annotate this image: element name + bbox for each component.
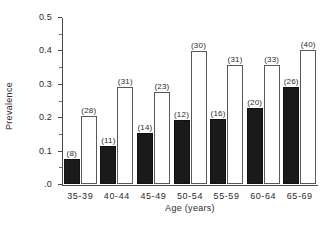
bar-open-50-54: (30) (191, 51, 207, 184)
bar-count-label: (28) (81, 106, 96, 115)
bar-filled-35-39: (8) (64, 159, 80, 184)
x-tick-label-40-44: 40-44 (104, 191, 130, 201)
y-minor-tick-3 (59, 67, 62, 68)
x-axis-line (62, 185, 318, 186)
y-tick-label-0: .0 (44, 179, 52, 189)
bar-count-label: (8) (67, 149, 77, 158)
bar-open-65-69: (40) (300, 50, 316, 184)
y-tick-label-4: 0.4 (39, 45, 52, 55)
x-tick-label-55-59: 55-59 (214, 191, 240, 201)
bar-count-label: (31) (228, 55, 243, 64)
x-axis-title: Age (years) (62, 203, 318, 213)
plot-area: .00.10.20.30.40.5 (8)(28)(11)(31)(14)(23… (62, 18, 318, 185)
bar-group: (16)(31) (210, 17, 243, 184)
y-tick-label-5: 0.5 (39, 12, 52, 22)
y-axis-title: Prevalence (2, 56, 16, 156)
bar-count-label: (23) (154, 82, 169, 91)
y-minor-tick-1 (59, 134, 62, 135)
y-tick-label-3: 0.3 (39, 79, 52, 89)
y-tick-label-1: 0.1 (39, 146, 52, 156)
x-tick-label-45-49: 45-49 (140, 191, 166, 201)
y-tick-5: 0.5 (58, 17, 62, 18)
y-minor-tick-2 (59, 101, 62, 102)
bar-count-label: (33) (264, 55, 279, 64)
bar-open-35-39: (28) (81, 116, 97, 184)
bar-filled-50-54: (12) (174, 120, 190, 184)
y-tick-1: 0.1 (58, 151, 62, 152)
x-tick-label-50-54: 50-54 (177, 191, 203, 201)
y-tick-0: .0 (58, 184, 62, 185)
bar-filled-65-69: (26) (283, 87, 299, 184)
y-tick-label-2: 0.2 (39, 112, 52, 122)
bar-count-label: (40) (301, 40, 316, 49)
bar-group: (11)(31) (100, 17, 133, 184)
y-axis-title-text: Prevalence (4, 82, 14, 130)
bar-filled-60-64: (20) (247, 108, 263, 184)
bar-group: (26)(40) (283, 17, 316, 184)
x-tick-label-35-39: 35-39 (67, 191, 93, 201)
bar-open-45-49: (23) (154, 92, 170, 184)
bar-open-40-44: (31) (117, 87, 133, 184)
bar-count-label: (31) (118, 77, 133, 86)
prevalence-by-age-bar-chart: Prevalence .00.10.20.30.40.5 (8)(28)(11)… (0, 0, 324, 230)
bar-open-60-64: (33) (264, 65, 280, 184)
bar-filled-45-49: (14) (137, 133, 153, 184)
bar-open-55-59: (31) (227, 65, 243, 184)
y-tick-2: 0.2 (58, 117, 62, 118)
y-minor-tick-4 (59, 34, 62, 35)
y-tick-4: 0.4 (58, 50, 62, 51)
bar-count-label: (12) (174, 110, 189, 119)
y-tick-3: 0.3 (58, 84, 62, 85)
bar-group: (14)(23) (137, 17, 170, 184)
bar-count-label: (14) (137, 123, 152, 132)
bar-count-label: (11) (101, 136, 115, 145)
bar-group: (12)(30) (174, 17, 207, 184)
bar-count-label: (30) (191, 41, 206, 50)
bar-count-label: (16) (211, 109, 226, 118)
bar-filled-40-44: (11) (100, 146, 116, 184)
x-tick-label-60-64: 60-64 (250, 191, 276, 201)
bar-filled-55-59: (16) (210, 119, 226, 184)
x-tick-label-65-69: 65-69 (287, 191, 313, 201)
y-minor-tick-0 (59, 167, 62, 168)
bar-group: (20)(33) (247, 17, 280, 184)
bar-count-label: (26) (284, 77, 299, 86)
bar-group: (8)(28) (64, 17, 97, 184)
bar-count-label: (20) (247, 98, 262, 107)
